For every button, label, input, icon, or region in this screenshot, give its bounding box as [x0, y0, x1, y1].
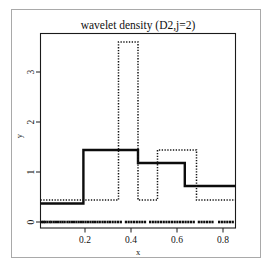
figure-container: wavelet density (D2,j=2) 0 1 2 3 y 0.2 0: [0, 0, 273, 272]
figure-outer-frame: [11, 9, 261, 258]
